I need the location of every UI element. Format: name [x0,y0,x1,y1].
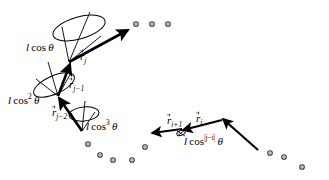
cone-side-2a [36,79,58,96]
vector-base-ri: r [196,112,200,124]
vector-base-rip1: r [167,114,171,126]
vector-arrow-accent-wrap-rj: r [80,51,84,62]
vector-base-rj: r [80,50,84,62]
cone-side-1a [62,27,69,62]
label-vector-r-j: rj [80,51,86,65]
chain-vector-r-incoming [223,119,258,150]
vector-sub-ri: i [200,118,202,127]
label-coneij-exponent: |j−i| [204,133,215,142]
cone-ellipse-1 [50,10,108,46]
label-cone1-fn: cos [31,41,46,53]
ellipsis-dots-bottom-left [86,142,148,163]
figure-canvas: l cos θ l cos2 θ l cos3 θ l cos|j−i| θ r… [0,0,329,180]
vector-arrow-accent-wrap-rip1: r [167,115,171,126]
vector-sub-rj: j [84,56,86,65]
vector-base-rjm2: r [52,106,56,118]
vector-arrow-accent-wrap-rjm2: r [52,107,56,118]
ellipsis-dots-top [134,22,171,27]
vector-arrow-accent-wrap-ri: r [196,113,200,124]
vector-sub-rip1: i+1 [171,120,182,129]
label-cone2-angle: θ [34,94,39,106]
chain-vector-r-j [69,30,128,62]
label-vector-r-j-minus-2: rj−2 [52,107,67,121]
label-coneij-fn: cos [189,135,204,147]
cone-group-1 [50,10,108,62]
label-l-cos3-theta: l cos3 θ [86,119,117,132]
label-vector-r-j-minus-1: rj−1 [69,79,84,93]
label-l-cos-ji-theta: l cos|j−i| θ [184,134,223,147]
vector-sub-rjm1: j−1 [73,84,84,93]
vector-sub-rjm2: j−2 [56,112,67,121]
label-coneij-angle: θ [218,135,223,147]
label-cone3-angle: θ [112,120,117,132]
label-vector-r-i: ri [196,113,202,127]
label-cone3-fn: cos [91,120,106,132]
label-cone1-angle: θ [48,41,53,53]
label-vector-r-i-plus-1: ri+1 [167,115,182,129]
vector-arrow-accent-wrap-rjm1: r [69,79,73,90]
label-l-cos-theta: l cos θ [26,42,54,53]
label-l-cos2-theta: l cos2 θ [8,93,39,106]
label-cone2-fn: cos [13,94,28,106]
ellipsis-dots-bottom-right [268,151,305,170]
diagram-svg [0,0,329,180]
cone-axis-2 [48,62,58,96]
chain-vector-r-i [183,120,222,130]
vector-base-rjm1: r [69,78,73,90]
